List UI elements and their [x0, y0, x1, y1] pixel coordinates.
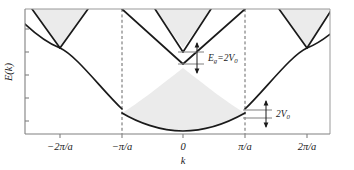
x-tick-label-minus-pi-over-a: −π/a [112, 141, 133, 152]
band-curve-second-left [25, 24, 122, 109]
x-axis-title: k [181, 155, 186, 166]
y-axis-title: E(k) [3, 62, 15, 82]
annotation-label-band-gap-center: Eg=2V0 [207, 53, 238, 64]
y-axis-ticks [25, 29, 29, 121]
band-structure-figure: −2π/a −π/a 0 π/a 2π/a k E(k) Eg=2V0 [0, 0, 354, 170]
annotation-2v-subscript: 0 [287, 113, 291, 120]
gap-center-arrow-head-up [195, 42, 200, 48]
annotation-eg-v-subscript: 0 [234, 57, 238, 64]
gap-center-arrow-head-down [195, 69, 200, 75]
x-tick-label-zero: 0 [180, 141, 186, 152]
x-tick-label-minus-2pi-over-a: −2π/a [47, 141, 73, 152]
x-tick-label-pi-over-a: π/a [238, 141, 251, 152]
occupied-region-center-v [155, 9, 211, 48]
occupied-region-left-v [32, 9, 88, 48]
annotation-label-band-gap-zone-boundary: 2V0 [276, 109, 291, 120]
gap-boundary-arrow-head-down [264, 123, 269, 129]
gap-boundary-arrow-head-up [264, 100, 269, 106]
band-curve-second-right [245, 24, 342, 109]
x-tick-labels: −2π/a −π/a 0 π/a 2π/a [47, 141, 316, 152]
band-structure-plot: −2π/a −π/a 0 π/a 2π/a k E(k) Eg=2V0 [0, 0, 354, 170]
x-tick-label-2pi-over-a: 2π/a [298, 141, 317, 152]
x-axis-ticks [60, 134, 307, 138]
annotation-eg-equals-2v: =2V [217, 53, 235, 63]
occupied-region-right-v [279, 9, 330, 48]
